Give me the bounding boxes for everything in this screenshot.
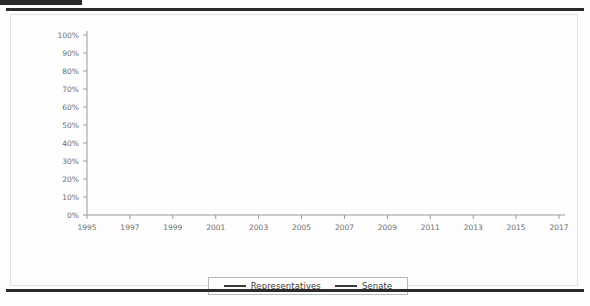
page-container: 0%10%20%30%40%50%60%70%80%90%100%1995199… (0, 0, 590, 306)
x-axis-tick-label: 2001 (206, 223, 225, 232)
x-axis-tick-label: 2017 (549, 223, 568, 232)
y-axis-tick-label: 40% (62, 139, 79, 148)
x-axis-tick-label: 2005 (292, 223, 311, 232)
top-tab-fragment (0, 0, 82, 5)
x-axis-tick-label: 2013 (464, 223, 483, 232)
y-axis-tick-label: 50% (62, 121, 79, 130)
x-axis-tick-label: 2009 (378, 223, 397, 232)
y-axis-tick-label: 10% (62, 193, 79, 202)
chart-legend: Representatives Senate (208, 277, 408, 295)
y-axis-tick-label: 30% (62, 157, 79, 166)
y-axis-tick-label: 90% (62, 49, 79, 58)
legend-line-icon (335, 285, 357, 287)
y-axis-tick-label: 80% (62, 67, 79, 76)
x-axis-tick-label: 2011 (421, 223, 440, 232)
x-axis-tick-label: 2015 (507, 223, 526, 232)
line-chart: 0%10%20%30%40%50%60%70%80%90%100%1995199… (11, 15, 579, 287)
y-axis-tick-label: 60% (62, 103, 79, 112)
x-axis-tick-label: 1997 (120, 223, 139, 232)
y-axis-tick-label: 100% (58, 31, 79, 40)
y-axis-tick-label: 0% (67, 211, 79, 220)
chart-frame: 0%10%20%30%40%50%60%70%80%90%100%1995199… (10, 14, 578, 286)
x-axis-tick-label: 2003 (249, 223, 268, 232)
y-axis-tick-label: 70% (62, 85, 79, 94)
y-axis-tick-label: 20% (62, 175, 79, 184)
x-axis-tick-label: 1995 (77, 223, 96, 232)
footer-divider (6, 289, 584, 292)
legend-line-icon (224, 285, 246, 287)
x-axis-tick-label: 1999 (163, 223, 182, 232)
header-divider (6, 8, 584, 11)
x-axis-tick-label: 2007 (335, 223, 354, 232)
